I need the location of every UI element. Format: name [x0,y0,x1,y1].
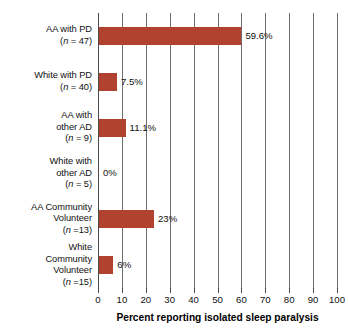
gridline [313,13,314,288]
x-axis-tick [313,288,314,293]
x-axis-tick-label: 100 [329,294,345,306]
sample-size: (n =13) [0,225,92,237]
category-label: AA with PD(n = 47) [0,24,92,47]
x-axis-tick-label: 10 [117,294,128,306]
category-label-column: AA with PD(n = 47)White with PD(n = 40)A… [0,13,92,288]
x-axis-tick [146,288,147,293]
category-label: White with PD(n = 40) [0,70,92,93]
bar-value-label: 59.6% [245,31,272,41]
bar [99,119,126,137]
gridline [337,13,338,288]
plot-area: 59.6%7.5%11.1%0%23%6% [98,13,337,288]
gridline [122,13,123,288]
sample-size: (n = 5) [0,179,92,191]
bar-value-label: 23% [158,214,177,224]
category-label: AA withother AD(n = 9) [0,110,92,145]
x-axis-tick-labels: 0102030405060708090100 [98,294,337,307]
sample-size: (n = 9) [0,133,92,145]
gridline [194,13,195,288]
x-axis-title: Percent reporting isolated sleep paralys… [98,311,337,324]
x-axis-tick [170,288,171,293]
x-axis-tick [265,288,266,293]
x-axis-tick [98,288,99,293]
bar [99,27,241,45]
bar-value-label: 6% [117,260,131,270]
gridline [289,13,290,288]
bar [99,256,113,274]
bar [99,73,117,91]
bar-chart: AA with PD(n = 47)White with PD(n = 40)A… [0,0,348,333]
gridline [98,13,99,288]
x-axis-tick [241,288,242,293]
bar-value-label: 0% [103,168,117,178]
x-axis-tick [218,288,219,293]
x-axis-tick-label: 80 [284,294,295,306]
category-label: WhiteCommunityVolunteer(n =15) [0,242,92,288]
x-axis-tick-label: 30 [164,294,175,306]
gridline [241,13,242,288]
category-label: White withother AD(n = 5) [0,156,92,191]
sample-size: (n = 47) [0,36,92,48]
x-axis-tick-label: 50 [212,294,223,306]
x-axis-tick-label: 20 [140,294,151,306]
sample-size: (n =15) [0,277,92,289]
x-axis-tick-label: 0 [95,294,100,306]
sample-size: (n = 40) [0,82,92,94]
x-axis-tick [122,288,123,293]
bar-value-label: 11.1% [130,123,157,133]
x-axis-tick [194,288,195,293]
x-axis-tick-label: 60 [236,294,247,306]
bar-value-label: 7.5% [121,77,143,87]
bar [99,210,154,228]
x-axis-tick-label: 40 [188,294,199,306]
x-axis-tick-label: 90 [308,294,319,306]
gridline [146,13,147,288]
category-label: AA CommunityVolunteer(n =13) [0,202,92,237]
gridline [170,13,171,288]
x-axis-tick [289,288,290,293]
x-axis-tick-label: 70 [260,294,271,306]
gridline [218,13,219,288]
x-axis-tick [337,288,338,293]
gridline [265,13,266,288]
